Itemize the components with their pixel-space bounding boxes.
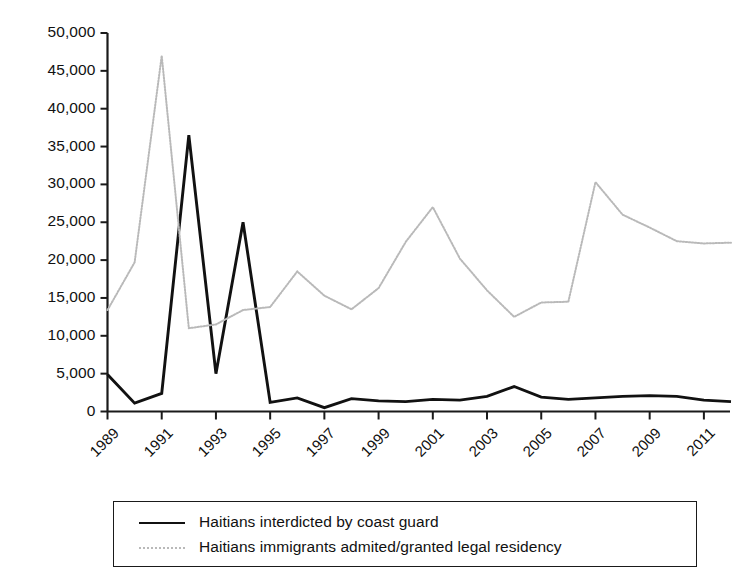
- y-tick-label: 35,000: [47, 137, 95, 155]
- series-line-1: [108, 135, 732, 408]
- y-tick-label: 25,000: [47, 212, 95, 230]
- y-tick-label: 0: [87, 402, 96, 420]
- y-tick-label: 10,000: [47, 326, 95, 344]
- legend-item-residency: Haitians immigrants admited/granted lega…: [114, 535, 562, 559]
- y-tick-label: 45,000: [47, 61, 95, 79]
- legend-item-interdicted: Haitians interdicted by coast guard: [114, 510, 439, 534]
- y-tick-label: 40,000: [47, 99, 95, 117]
- x-axis-ticks: [108, 412, 704, 420]
- legend-item-label: Haitians immigrants admited/granted lega…: [199, 538, 562, 556]
- legend-item-label: Haitians interdicted by coast guard: [199, 513, 439, 531]
- dotted-line-swatch: [139, 541, 185, 553]
- y-tick-label: 15,000: [47, 288, 95, 306]
- chart-legend: Haitians interdicted by coast guard Hait…: [113, 501, 697, 567]
- y-tick-label: 50,000: [47, 23, 95, 41]
- y-tick-label: 20,000: [47, 250, 95, 268]
- chart-plot-area: [0, 0, 746, 585]
- chart-series-group: [108, 56, 732, 408]
- y-tick-label: 5,000: [56, 364, 95, 382]
- y-tick-label: 30,000: [47, 174, 95, 192]
- chart-figure: 05,00010,00015,00020,00025,00030,00035,0…: [0, 0, 746, 585]
- solid-line-swatch: [139, 516, 185, 528]
- series-line-2: [108, 56, 732, 329]
